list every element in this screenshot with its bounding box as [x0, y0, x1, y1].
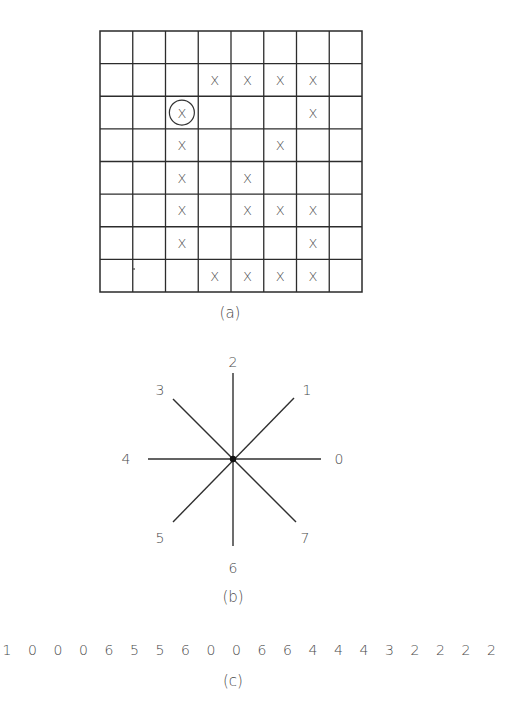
pixel-mark: X — [308, 203, 317, 218]
chain-code-sequence: 10006556006644432222 — [3, 642, 496, 658]
chain-code-digit: 1 — [3, 642, 12, 658]
pixel-mark: X — [276, 73, 285, 88]
caption-c: (c) — [223, 672, 243, 690]
chain-code-digit: 6 — [258, 642, 267, 658]
chain-code-digit: 6 — [181, 642, 190, 658]
chain-code-digit: 4 — [334, 642, 343, 658]
pixel-mark: X — [177, 203, 186, 218]
chain-code-digit: 3 — [385, 642, 394, 658]
chain-code-digit: 2 — [411, 642, 420, 658]
grid-marks: XXXXXXXXXXXXXXXXXXXX — [169, 73, 317, 284]
pixel-mark: X — [276, 269, 285, 284]
direction-label-2: 2 — [229, 354, 238, 370]
direction-label-4: 4 — [122, 451, 131, 467]
pixel-mark: X — [177, 171, 186, 186]
chain-code-digit: 0 — [54, 642, 63, 658]
pixel-mark: X — [308, 106, 317, 121]
pixel-mark: X — [308, 269, 317, 284]
chain-code-digit: 2 — [436, 642, 445, 658]
panel-b-direction-compass: 0 1 2 3 4 5 6 7 (b) — [122, 354, 344, 606]
pixel-mark: X — [177, 236, 186, 251]
chain-code-digit: 4 — [309, 642, 318, 658]
direction-label-3: 3 — [156, 382, 165, 398]
chain-code-digit: 4 — [360, 642, 369, 658]
chain-code-digit: 0 — [207, 642, 216, 658]
chain-code-digit: 0 — [28, 642, 37, 658]
direction-label-1: 1 — [303, 382, 312, 398]
direction-label-7: 7 — [301, 530, 310, 546]
chain-code-figure: XXXXXXXXXXXXXXXXXXXX (a) 0 1 2 3 4 5 6 7… — [0, 0, 518, 711]
pixel-mark: X — [243, 269, 252, 284]
chain-code-digit: 6 — [105, 642, 114, 658]
pixel-mark: X — [243, 73, 252, 88]
chain-code-digit: 5 — [130, 642, 139, 658]
direction-label-5: 5 — [156, 530, 165, 546]
panel-a-pixel-grid: XXXXXXXXXXXXXXXXXXXX (a) — [100, 31, 362, 322]
grid-lines — [100, 31, 362, 292]
scan-speck — [133, 268, 135, 270]
start-pixel-mark: X — [177, 106, 186, 121]
pixel-mark: X — [276, 203, 285, 218]
pixel-mark: X — [210, 73, 219, 88]
caption-b: (b) — [222, 588, 243, 606]
compass-center-dot — [230, 456, 236, 462]
pixel-mark: X — [308, 73, 317, 88]
caption-a: (a) — [220, 304, 241, 322]
pixel-mark: X — [243, 171, 252, 186]
pixel-mark: X — [177, 138, 186, 153]
chain-code-digit: 0 — [232, 642, 241, 658]
chain-code-digit: 2 — [487, 642, 496, 658]
chain-code-digit: 2 — [462, 642, 471, 658]
pixel-mark: X — [276, 138, 285, 153]
chain-code-digit: 6 — [283, 642, 292, 658]
panel-c-chain-code: 10006556006644432222 (c) — [3, 642, 496, 690]
chain-code-digit: 0 — [79, 642, 88, 658]
chain-code-digit: 5 — [156, 642, 165, 658]
pixel-mark: X — [243, 203, 252, 218]
figure-canvas: XXXXXXXXXXXXXXXXXXXX (a) 0 1 2 3 4 5 6 7… — [0, 0, 518, 711]
direction-label-0: 0 — [335, 451, 344, 467]
pixel-mark: X — [210, 269, 219, 284]
pixel-mark: X — [308, 236, 317, 251]
direction-label-6: 6 — [229, 560, 238, 576]
